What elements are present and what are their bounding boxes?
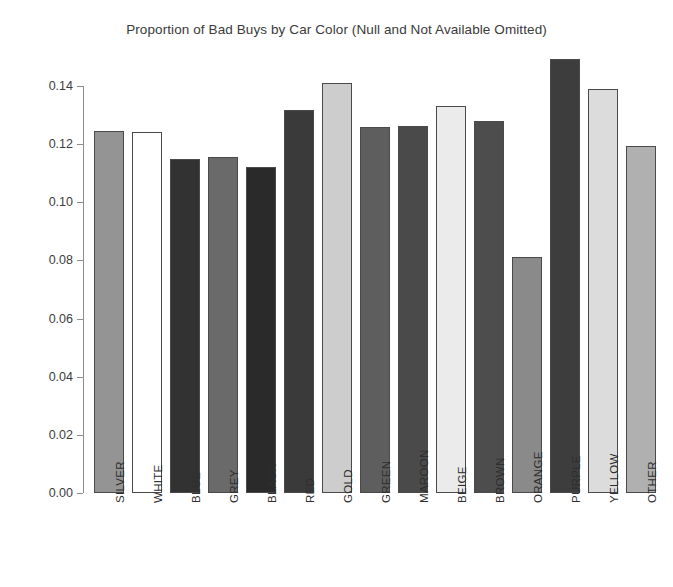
y-axis-tick-label: 0.14 <box>21 79 73 93</box>
chart-figure: Proportion of Bad Buys by Car Color (Nul… <box>0 0 673 587</box>
x-axis-tick-label: PURPLE <box>570 455 582 503</box>
y-axis-tick <box>77 435 83 436</box>
bar-grey <box>208 157 239 493</box>
bar-other <box>626 146 657 493</box>
x-axis-tick-label: GREY <box>228 469 240 503</box>
x-axis-tick-label: MAROON <box>418 449 430 503</box>
x-axis-tick-label: BEIGE <box>456 466 468 503</box>
plot-area <box>90 86 660 493</box>
bar-gold <box>322 83 353 493</box>
x-axis-tick-label: BROWN <box>494 457 506 503</box>
x-axis-tick-label: BLACK <box>266 464 278 503</box>
y-axis-tick-labels: 0.000.020.040.060.080.100.120.14 <box>18 0 73 587</box>
y-axis-tick <box>77 319 83 320</box>
y-axis-tick-label: 0.06 <box>21 312 73 326</box>
bar-beige <box>436 106 467 493</box>
x-axis-tick-label: YELLOW <box>608 453 620 503</box>
y-axis-tick <box>77 202 83 203</box>
bar-black <box>246 167 277 493</box>
y-axis-tick-label: 0.12 <box>21 137 73 151</box>
y-axis-tick-label: 0.02 <box>21 428 73 442</box>
x-axis-tick-label: SILVER <box>114 461 126 503</box>
y-axis-tick-label: 0.10 <box>21 195 73 209</box>
bar-green <box>360 127 391 493</box>
y-axis-tick <box>77 377 83 378</box>
y-axis-tick <box>77 144 83 145</box>
y-axis-tick-label: 0.04 <box>21 370 73 384</box>
bar-silver <box>94 131 125 493</box>
x-axis-tick-label: BLUE <box>190 472 202 503</box>
chart-title: Proportion of Bad Buys by Car Color (Nul… <box>0 22 673 37</box>
bar-yellow <box>588 89 619 493</box>
x-axis-tick-label: ORANGE <box>532 451 544 503</box>
bar-white <box>132 132 163 493</box>
x-axis-tick-label: RED <box>304 478 316 503</box>
bar-maroon <box>398 126 429 493</box>
x-axis-tick-label: WHITE <box>152 464 164 503</box>
x-axis-tick-label: GREEN <box>380 461 392 503</box>
y-axis-tick-label: 0.00 <box>21 486 73 500</box>
x-axis-tick-label: GOLD <box>342 469 354 503</box>
x-axis-tick-label: OTHER <box>646 461 658 503</box>
y-axis-tick <box>77 260 83 261</box>
y-axis-tick-label: 0.08 <box>21 253 73 267</box>
y-axis-tick <box>77 493 83 494</box>
bar-red <box>284 110 315 493</box>
y-axis-line <box>83 86 84 493</box>
y-axis-tick <box>77 86 83 87</box>
x-axis-tick-labels: SILVERWHITEBLUEGREYBLACKREDGOLDGREENMARO… <box>90 497 660 585</box>
bar-purple <box>550 59 581 493</box>
bar-blue <box>170 159 201 493</box>
bar-brown <box>474 121 505 493</box>
